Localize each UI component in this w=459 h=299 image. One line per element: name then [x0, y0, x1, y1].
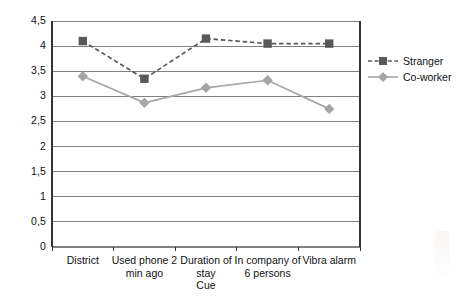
x-axis-title: Cue — [168, 279, 244, 292]
y-axis-tick-label: 2,5 — [4, 114, 46, 126]
data-point-marker — [263, 39, 271, 47]
y-axis-tick-label: 3,5 — [4, 64, 46, 76]
data-point-marker — [140, 75, 148, 83]
y-axis-tick-label: 0 — [4, 240, 46, 252]
y-axis-tick-label: 2 — [4, 140, 46, 152]
data-point-marker — [139, 98, 149, 108]
legend-label-stranger: Stranger — [403, 55, 443, 67]
data-point-marker — [78, 71, 88, 81]
chart-container: 4,543,532,521,510,50 DistrictUsed phone … — [0, 0, 459, 299]
data-point-marker — [262, 75, 272, 85]
legend-key-coworker-solid-diamond-icon — [368, 71, 398, 83]
legend-item-stranger: Stranger — [368, 53, 451, 69]
data-point-marker — [202, 34, 210, 42]
chart-legend: Stranger Co-worker — [368, 53, 451, 85]
series-lines — [83, 39, 329, 109]
data-point-marker — [324, 104, 334, 114]
y-axis-tick-label: 0,5 — [4, 215, 46, 227]
data-point-marker — [79, 37, 87, 45]
data-point-marker — [201, 83, 211, 93]
scan-artifact — [435, 231, 449, 277]
legend-label-coworker: Co-worker — [403, 71, 451, 83]
y-axis-tick-label: 1,5 — [4, 165, 46, 177]
data-point-marker — [325, 39, 333, 47]
x-axis-ticks — [52, 247, 360, 251]
plot-frame — [52, 21, 360, 247]
y-axis-tick-label: 1 — [4, 190, 46, 202]
y-axis-tick-label: 4,5 — [4, 14, 46, 26]
x-axis-category-label: Vibra alarm — [291, 254, 367, 267]
y-axis-tick-label: 4 — [4, 39, 46, 51]
legend-key-stranger-dashed-square-icon — [368, 55, 398, 67]
y-axis-tick-label: 3 — [4, 89, 46, 101]
gridlines — [52, 21, 360, 247]
legend-item-coworker: Co-worker — [368, 69, 451, 85]
